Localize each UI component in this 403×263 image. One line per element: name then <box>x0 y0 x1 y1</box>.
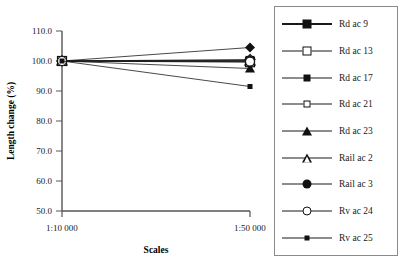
series-rv-ac-25 <box>60 59 253 90</box>
legend-box: Rd ac 9 Rd ac 13 Rd ac 17 Rd ac 21 <box>274 6 398 256</box>
legend-item-rd-ac-17[interactable]: Rd ac 17 <box>275 66 397 90</box>
legend-sample-diamond-filled-icon <box>281 68 333 88</box>
data-series-layer <box>57 43 255 90</box>
legend-label: Rd ac 21 <box>333 99 373 109</box>
legend-sample-square-filled-icon <box>281 14 333 34</box>
legend-items: Rd ac 9 Rd ac 13 Rd ac 17 Rd ac 21 <box>275 7 397 255</box>
x-axis-title: Scales <box>144 245 169 255</box>
legend-item-rd-ac-23[interactable]: Rd ac 23 <box>275 119 397 143</box>
legend-sample-triangle-open-icon <box>281 148 333 168</box>
series-rd-ac-17 <box>57 43 255 67</box>
legend-label: Rv ac 24 <box>333 206 373 216</box>
legend-sample-triangle-filled-icon <box>281 121 333 141</box>
x-axis-ticks <box>62 211 250 217</box>
legend-item-rd-ac-21[interactable]: Rd ac 21 <box>275 92 397 116</box>
legend-item-rail-ac-2[interactable]: Rail ac 2 <box>275 146 397 170</box>
legend-label: Rd ac 9 <box>333 19 368 29</box>
legend-item-rail-ac-3[interactable]: Rail ac 3 <box>275 172 397 196</box>
x-tick-label-1-10000: 1:10 000 <box>46 223 78 233</box>
y-tick-label-80: 80.0 <box>36 116 52 126</box>
legend-label: Rail ac 2 <box>333 153 373 163</box>
legend-label: Rv ac 25 <box>333 233 373 243</box>
legend-sample-circle-open-icon <box>281 201 333 221</box>
y-tick-label-60: 60.0 <box>36 176 52 186</box>
x-tick-label-1-50000: 1:50 000 <box>234 223 266 233</box>
legend-item-rd-ac-13[interactable]: Rd ac 13 <box>275 39 397 63</box>
y-tick-label-50: 50.0 <box>36 206 52 216</box>
y-tick-label-70: 70.0 <box>36 146 52 156</box>
legend-item-rv-ac-25[interactable]: Rv ac 25 <box>275 226 397 250</box>
y-tick-label-100: 100.0 <box>32 56 53 66</box>
legend-sample-square-small-icon <box>281 228 333 248</box>
y-tick-label-90: 90.0 <box>36 86 52 96</box>
legend-sample-circle-filled-icon <box>281 174 333 194</box>
chart-figure: 110.0 100.0 90.0 80.0 70.0 60.0 50.0 1:1… <box>0 0 403 263</box>
legend-item-rv-ac-24[interactable]: Rv ac 24 <box>275 199 397 223</box>
legend-sample-square-open-icon <box>281 41 333 61</box>
y-axis-title: Length change (%) <box>6 82 17 160</box>
legend-label: Rd ac 13 <box>333 46 373 56</box>
legend-sample-diamond-open-icon <box>281 94 333 114</box>
legend-label: Rail ac 3 <box>333 179 373 189</box>
plot-area: 110.0 100.0 90.0 80.0 70.0 60.0 50.0 1:1… <box>0 0 268 263</box>
legend-label: Rd ac 17 <box>333 73 373 83</box>
y-tick-label-110: 110.0 <box>32 26 52 36</box>
legend-label: Rd ac 23 <box>333 126 373 136</box>
line-chart: 110.0 100.0 90.0 80.0 70.0 60.0 50.0 1:1… <box>0 0 268 263</box>
legend-item-rd-ac-9[interactable]: Rd ac 9 <box>275 12 397 36</box>
